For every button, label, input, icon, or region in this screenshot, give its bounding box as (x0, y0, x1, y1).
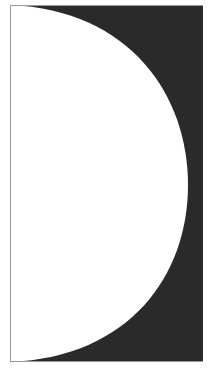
half-disc-figure (10, 5, 203, 362)
half-disc-graphic (10, 5, 203, 362)
